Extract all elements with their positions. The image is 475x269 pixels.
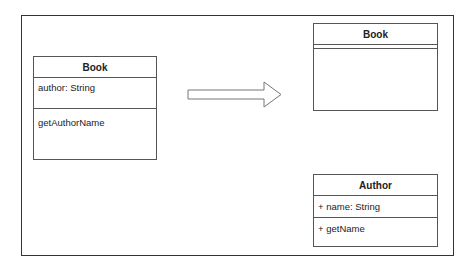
- class-author[interactable]: Author + name: String + getName: [313, 174, 438, 247]
- class-attributes: + name: String: [314, 196, 437, 218]
- class-name: Book: [34, 57, 156, 78]
- class-name: Book: [314, 24, 437, 45]
- class-methods: getAuthorName: [34, 109, 156, 128]
- right-arrow-icon: [186, 80, 284, 110]
- class-book-before[interactable]: Book author: String getAuthorName: [33, 56, 157, 160]
- class-methods: + getName: [314, 218, 437, 234]
- class-book-after[interactable]: Book: [313, 23, 438, 111]
- method: + getName: [318, 223, 365, 234]
- attribute: + name: String: [318, 201, 380, 212]
- method: getAuthorName: [38, 117, 105, 128]
- class-name: Author: [314, 175, 437, 196]
- attribute: author: String: [38, 82, 95, 93]
- class-attributes: [314, 45, 437, 49]
- class-attributes: author: String: [34, 78, 156, 109]
